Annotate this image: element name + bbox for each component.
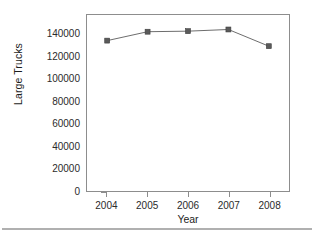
data-point-marker: [145, 29, 150, 34]
y-axis-tick-label: 120000: [24, 52, 80, 62]
y-axis-tick-labels: 020000400006000080000100000120000140000: [20, 0, 80, 237]
data-point-marker: [266, 44, 271, 49]
x-axis-tick-label: 2004: [86, 200, 126, 211]
x-axis-tick-label: 2008: [250, 200, 290, 211]
x-axis-tick-label: 2006: [168, 200, 208, 211]
x-axis-tick-mark: [270, 192, 271, 197]
x-axis-tick-mark: [188, 192, 189, 197]
y-axis-tick-label: 100000: [24, 74, 80, 84]
data-point-marker: [226, 27, 231, 32]
y-axis-tick-label: 60000: [24, 119, 80, 129]
y-axis-tick-mark: [101, 192, 106, 193]
x-axis-tick-mark: [106, 192, 107, 197]
x-axis-title: Year: [86, 213, 290, 225]
y-axis-tick-label: 80000: [24, 97, 80, 107]
y-axis-tick-label: 0: [24, 187, 80, 197]
data-point-marker: [186, 29, 191, 34]
x-axis-tick-mark: [229, 192, 230, 197]
plot-area: [86, 14, 290, 192]
y-axis-tick-label: 20000: [24, 164, 80, 174]
y-axis-tick-label: 40000: [24, 142, 80, 152]
data-point-marker: [105, 38, 110, 43]
chart-figure: Large Trucks 020000400006000080000100000…: [0, 0, 314, 237]
x-axis-tick-label: 2007: [209, 200, 249, 211]
y-axis-tick-label: 140000: [24, 29, 80, 39]
series-canvas: [87, 15, 289, 191]
x-axis-tick-mark: [147, 192, 148, 197]
x-axis-tick-label: 2005: [127, 200, 167, 211]
footer-divider: [2, 228, 312, 230]
